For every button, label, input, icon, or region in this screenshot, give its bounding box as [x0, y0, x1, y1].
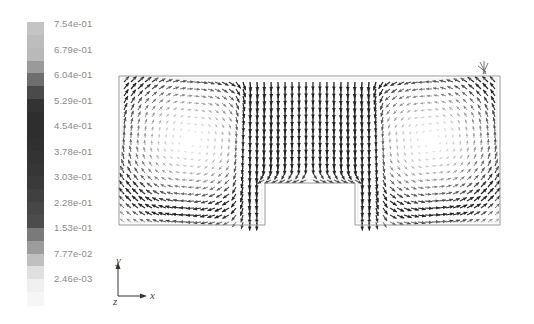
arrow-head-icon	[382, 148, 385, 151]
arrow-head-icon	[481, 154, 484, 157]
arrow-head-icon	[214, 146, 216, 149]
arrow-head-icon	[202, 194, 206, 197]
arrow-head-icon	[414, 201, 418, 204]
arrow-head-icon	[248, 227, 252, 231]
arrow-head-icon	[427, 102, 430, 105]
arrow-head-icon	[165, 134, 167, 137]
arrow-head-icon	[150, 148, 152, 151]
arrow-head-icon	[195, 116, 198, 118]
corner-vector	[478, 66, 486, 72]
arrow-head-icon	[183, 172, 186, 174]
arrow-head-icon	[435, 115, 438, 117]
arrow-head-icon	[221, 132, 223, 135]
arrow-head-icon	[158, 141, 160, 144]
arrow-head-icon	[480, 140, 483, 143]
arrow-head-icon	[420, 173, 423, 175]
arrow-head-icon	[404, 82, 408, 85]
arrow-head-icon	[425, 80, 428, 83]
arrow-head-icon	[486, 132, 489, 135]
arrow-head-icon	[202, 124, 205, 126]
arrow-head-icon	[234, 148, 237, 151]
arrow-head-icon	[203, 102, 206, 104]
arrow-head-icon	[158, 134, 160, 137]
arrow-head-icon	[183, 158, 186, 160]
arrow-head-icon	[181, 108, 184, 110]
arrow-head-icon	[179, 135, 181, 137]
arrow-head-icon	[233, 176, 236, 180]
arrow-head-icon	[428, 109, 431, 111]
arrow-head-icon	[190, 87, 193, 90]
arrow-head-icon	[488, 153, 491, 157]
arrow-head-icon	[200, 139, 202, 141]
arrow-head-icon	[434, 172, 437, 174]
velocity-vectors	[119, 61, 500, 231]
arrow-head-icon	[459, 134, 461, 137]
arrow-head-icon	[438, 135, 440, 137]
arrow-head-icon	[188, 130, 190, 132]
arrow-head-icon	[473, 133, 476, 136]
arrow-head-icon	[204, 81, 208, 84]
arrow-head-icon	[480, 133, 483, 136]
arrow-head-icon	[434, 165, 437, 167]
arrow-head-icon	[184, 151, 186, 153]
arrow-head-icon	[197, 88, 200, 91]
arrow-head-icon	[429, 200, 433, 203]
arrow-head-icon	[421, 116, 424, 118]
arrow-head-icon	[130, 132, 133, 135]
arrow-head-icon	[196, 95, 199, 98]
arrow-head-icon	[441, 94, 444, 97]
arrow-head-icon	[429, 130, 431, 132]
arrow-head-icon	[221, 147, 223, 150]
arrow-head-icon	[227, 154, 229, 157]
arrow-head-icon	[452, 134, 454, 136]
arrow-head-icon	[124, 110, 127, 114]
arrow-head-icon	[197, 173, 200, 175]
arrow-head-icon	[435, 192, 438, 195]
arrow-head-icon	[414, 194, 418, 197]
y-axis-label: y	[115, 254, 121, 266]
arrow-head-icon	[487, 139, 490, 142]
arrow-head-icon	[440, 164, 443, 166]
arrow-head-icon	[435, 186, 438, 189]
arrow-head-icon	[191, 151, 193, 153]
arrow-head-icon	[145, 119, 148, 122]
arrow-head-icon	[182, 179, 185, 182]
arrow-head-icon	[144, 133, 147, 136]
arrow-head-icon	[434, 179, 437, 182]
arrow-head-icon	[215, 132, 217, 135]
arrow-head-icon	[214, 139, 216, 141]
arrow-head-icon	[452, 141, 454, 144]
x-axis-label: x	[149, 289, 155, 301]
arrow-head-icon	[137, 125, 140, 128]
arrow-head-icon	[151, 133, 153, 136]
arrow-head-icon	[402, 132, 404, 135]
arrow-head-icon	[179, 206, 183, 209]
arrow-head-icon	[389, 140, 391, 143]
arrow-head-icon	[123, 131, 126, 134]
arrow-head-icon	[492, 110, 495, 114]
arrow-head-icon	[220, 153, 222, 156]
arrow-head-icon	[179, 213, 183, 217]
arrow-head-icon	[451, 121, 453, 124]
arrow-head-icon	[426, 87, 429, 90]
arrow-head-icon	[389, 154, 391, 157]
arrow-head-icon	[448, 185, 451, 188]
arrow-head-icon	[189, 95, 192, 98]
arrow-head-icon	[202, 110, 205, 112]
arrow-head-icon	[175, 87, 179, 90]
arrow-head-icon	[472, 126, 475, 129]
arrow-head-icon	[190, 158, 193, 160]
arrow-head-icon	[466, 134, 468, 137]
axis-triad: y x z	[105, 250, 165, 310]
arrow-head-icon	[165, 141, 167, 144]
arrow-head-icon	[136, 153, 139, 156]
arrow-head-icon	[180, 199, 184, 202]
arrow-head-icon	[360, 227, 364, 231]
arrow-head-icon	[459, 141, 461, 144]
arrow-head-icon	[427, 95, 430, 98]
arrow-head-icon	[367, 227, 371, 231]
arrow-head-icon	[176, 171, 179, 173]
arrow-head-icon	[493, 131, 496, 134]
arrow-head-icon	[234, 169, 237, 173]
arrow-head-icon	[436, 199, 440, 202]
